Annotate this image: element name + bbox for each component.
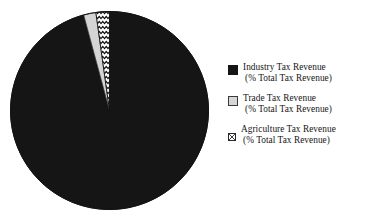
light-gray-square-icon xyxy=(228,96,238,106)
crosshatch-square-glyph xyxy=(228,133,236,141)
legend-label-trade-line2: (% Total Tax Revenue) xyxy=(243,104,332,115)
legend-label-agriculture-line2: (% Total Tax Revenue) xyxy=(241,135,336,146)
pie-chart-figure: Industry Tax Revenue (% Total Tax Revenu… xyxy=(0,0,371,220)
pie-chart-plot-area xyxy=(0,0,222,220)
legend-label-agriculture: Agriculture Tax Revenue (% Total Tax Rev… xyxy=(241,124,336,147)
legend-label-agriculture-line1: Agriculture Tax Revenue xyxy=(241,124,336,134)
legend-item-trade[interactable]: Trade Tax Revenue (% Total Tax Revenue) xyxy=(228,93,371,116)
filled-black-square-icon xyxy=(228,65,238,75)
legend-label-trade: Trade Tax Revenue (% Total Tax Revenue) xyxy=(243,93,332,116)
pie-chart-svg xyxy=(0,0,222,220)
legend-item-agriculture[interactable]: Agriculture Tax Revenue (% Total Tax Rev… xyxy=(228,124,371,147)
chart-legend: Industry Tax Revenue (% Total Tax Revenu… xyxy=(228,62,371,146)
crosshatch-square-icon xyxy=(228,127,236,135)
legend-label-industry: Industry Tax Revenue (% Total Tax Revenu… xyxy=(243,62,332,85)
legend-label-trade-line1: Trade Tax Revenue xyxy=(243,93,316,103)
legend-label-industry-line2: (% Total Tax Revenue) xyxy=(243,73,332,84)
legend-label-industry-line1: Industry Tax Revenue xyxy=(243,62,326,72)
legend-item-industry[interactable]: Industry Tax Revenue (% Total Tax Revenu… xyxy=(228,62,371,85)
